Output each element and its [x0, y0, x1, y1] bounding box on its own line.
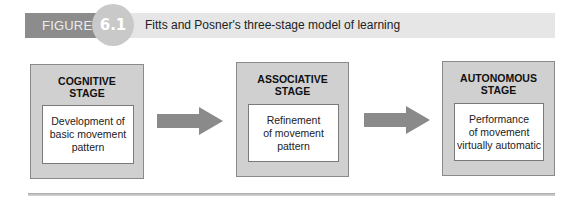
stage-associative: ASSOCIATIVE STAGE Refinement of movement… — [236, 62, 349, 177]
stage-title-line: STAGE — [237, 85, 348, 97]
stage-description-line: of movement — [263, 127, 324, 140]
stage-title-line: COGNITIVE — [31, 75, 143, 87]
stage-title-line: STAGE — [31, 87, 143, 99]
stage-description-line: pattern — [50, 141, 126, 154]
stage-title: AUTONOMOUS STAGE — [443, 72, 554, 96]
stage-description-line: Development of — [50, 115, 126, 128]
stage-title-line: ASSOCIATIVE — [237, 73, 348, 85]
stage-description-line: basic movement — [50, 128, 126, 141]
stage-description-line: Performance — [457, 113, 541, 126]
stage-autonomous: AUTONOMOUS STAGE Performance of movement… — [442, 61, 555, 176]
figure-number: 6.1 — [92, 13, 134, 38]
stage-description-line: Refinement — [263, 114, 324, 127]
stage-description: Performance of movement virtually automa… — [454, 103, 544, 161]
stage-title: ASSOCIATIVE STAGE — [237, 73, 348, 97]
stage-description: Refinement of movement pattern — [248, 104, 339, 162]
stage-description-line: virtually automatic — [457, 139, 541, 152]
stage-cognitive: COGNITIVE STAGE Development of basic mov… — [30, 64, 144, 179]
figure-title: Fitts and Posner's three-stage model of … — [145, 13, 400, 38]
stage-title-line: AUTONOMOUS — [443, 72, 554, 84]
stage-description: Development of basic movement pattern — [42, 105, 134, 164]
stage-title-line: STAGE — [443, 84, 554, 96]
bottom-rule — [28, 193, 555, 196]
figure-label: FIGURE — [25, 13, 97, 38]
stage-description-line: of movement — [457, 126, 541, 139]
arrow-right-icon — [364, 106, 430, 134]
stage-description-line: pattern — [263, 140, 324, 153]
arrow-right-icon — [157, 107, 223, 135]
stage-title: COGNITIVE STAGE — [31, 75, 143, 99]
